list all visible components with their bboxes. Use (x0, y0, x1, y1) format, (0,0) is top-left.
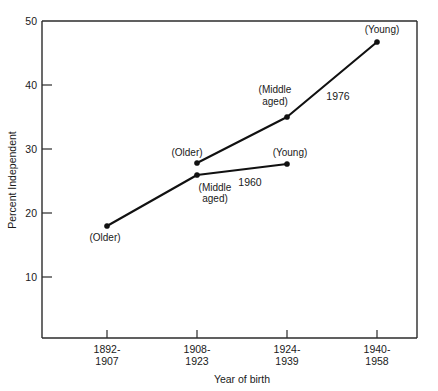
x-tick-label-3-line1: 1924- (274, 343, 301, 355)
point-label-1960-young: (Young) (273, 147, 308, 158)
line-chart: 50 40 30 20 10 Percent Independent 1892-… (0, 0, 438, 391)
point-label-1960-older: (Older) (89, 232, 120, 243)
data-point-1960-middle-aged (194, 172, 199, 177)
point-label-1976-older: (Older) (171, 147, 202, 158)
data-point-1976-middle-aged (284, 114, 289, 119)
point-label-1960-middle-aged-line2: aged) (202, 193, 228, 204)
series-annotation-1976: 1976 (326, 90, 350, 102)
data-point-1960-young (284, 161, 289, 166)
series-annotation-1960: 1960 (238, 176, 262, 188)
point-label-1960-middle-aged-line1: (Middle (199, 182, 232, 193)
x-axis-title: Year of birth (214, 373, 270, 385)
data-point-1976-older (194, 160, 199, 165)
y-tick-label-10: 10 (25, 271, 37, 283)
y-tick-label-50: 50 (25, 15, 37, 27)
y-tick-label-20: 20 (25, 207, 37, 219)
y-axis-title: Percent Independent (6, 131, 18, 229)
x-tick-label-1-line2: 1907 (95, 355, 119, 367)
x-tick-label-4-line1: 1940- (364, 343, 391, 355)
x-tick-label-3-line2: 1939 (275, 355, 299, 367)
x-tick-label-4-line2: 1958 (365, 355, 389, 367)
x-tick-label-1-line1: 1892- (94, 343, 121, 355)
y-tick-label-30: 30 (25, 143, 37, 155)
point-label-1976-young: (Young) (365, 24, 400, 35)
x-tick-label-2-line1: 1908- (184, 343, 211, 355)
y-tick-label-40: 40 (25, 79, 37, 91)
point-label-1976-middle-aged-line2: aged) (262, 96, 288, 107)
chart-container: 50 40 30 20 10 Percent Independent 1892-… (0, 0, 438, 391)
point-label-1976-middle-aged-line1: (Middle (259, 84, 292, 95)
x-tick-label-2-line2: 1923 (185, 355, 209, 367)
data-point-1960-older (104, 223, 109, 228)
data-point-1976-young (374, 39, 379, 44)
